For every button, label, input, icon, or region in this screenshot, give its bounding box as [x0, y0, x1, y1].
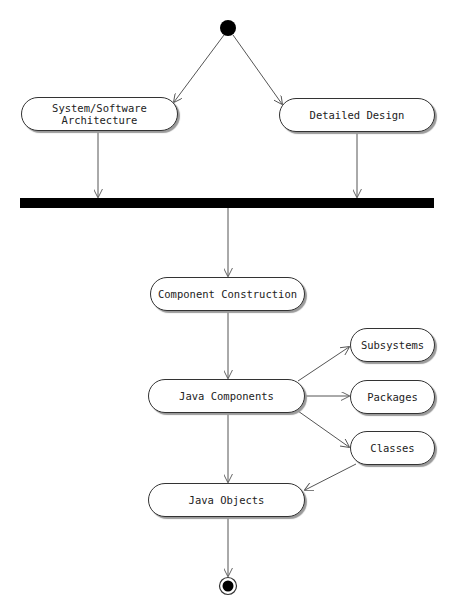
activity-system-software-architecture[interactable]: System/Software Architecture: [21, 97, 178, 131]
activity-classes[interactable]: Classes: [350, 431, 435, 465]
activity-subsystems[interactable]: Subsystems: [350, 328, 435, 362]
edge-start-to-architecture: [174, 35, 224, 102]
activity-packages[interactable]: Packages: [350, 380, 435, 414]
activity-component-construction[interactable]: Component Construction: [150, 277, 305, 311]
edge-java-components-to-subsystems: [298, 347, 349, 381]
edge-start-to-detailed-design: [233, 35, 282, 104]
fork-join-bar: [20, 198, 434, 208]
initial-node: [220, 20, 236, 36]
activity-detailed-design[interactable]: Detailed Design: [279, 98, 435, 132]
activity-java-components[interactable]: Java Components: [148, 379, 305, 413]
edge-classes-to-java-objects: [305, 464, 356, 490]
final-node-dot: [223, 581, 234, 592]
edge-java-components-to-classes: [298, 411, 349, 447]
activity-java-objects[interactable]: Java Objects: [148, 483, 305, 517]
